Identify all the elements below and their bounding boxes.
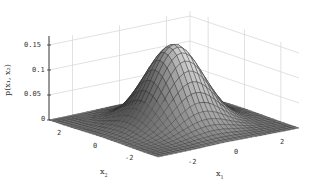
z-tick-0.15: 0.15: [24, 42, 41, 49]
x-tick-0: 0: [234, 149, 238, 156]
y-tick-2: 2: [57, 130, 61, 137]
y-axis-label: x2: [100, 168, 108, 178]
plot-canvas: [0, 0, 312, 190]
x-axis-label: x1: [216, 170, 224, 180]
surface-plot: 0.15 0.1 0.05 0 p(x₁, x₂) 2 0 -2 x2 -2 0…: [0, 0, 312, 190]
z-axis: [47, 36, 51, 120]
z-axis-label: p(x₁, x₂): [4, 64, 12, 96]
x-tick-2: 2: [280, 139, 284, 146]
x-tick--2: -2: [188, 159, 196, 166]
z-tick-0: 0: [41, 116, 45, 123]
y-tick--2: -2: [125, 155, 133, 162]
z-tick-0.1: 0.1: [32, 67, 45, 74]
y-tick-0: 0: [93, 143, 97, 150]
gaussian-surface: [49, 44, 299, 157]
z-tick-0.05: 0.05: [24, 91, 41, 98]
